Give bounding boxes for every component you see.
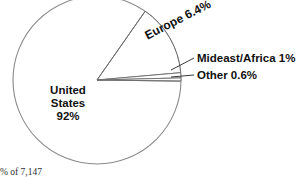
slice-label-us-line1: United bbox=[31, 84, 105, 97]
slice-label-us-line3: 92% bbox=[31, 110, 105, 123]
slice-label-united-states: United States 92% bbox=[31, 84, 105, 123]
slice-label-other: Other 0.6% bbox=[197, 69, 257, 82]
pie-chart-figure: United States 92% Europe 6.4% Mideast/Af… bbox=[0, 0, 301, 177]
slice-label-us-line2: States bbox=[31, 97, 105, 110]
chart-footnote: % of 7,147 bbox=[0, 167, 42, 177]
slice-label-mideast-africa: Mideast/Africa 1% bbox=[197, 52, 295, 65]
